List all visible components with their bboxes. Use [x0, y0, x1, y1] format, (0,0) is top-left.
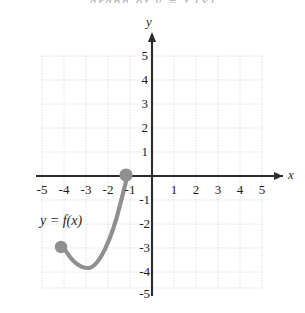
- y-tick-label: 5: [142, 48, 149, 64]
- y-tick-label: -1: [139, 192, 150, 208]
- endpoint-dot-left: [55, 241, 67, 253]
- x-tick-label: -5: [37, 182, 48, 198]
- x-tick-label: 1: [171, 182, 178, 198]
- y-tick-label: 2: [142, 120, 149, 136]
- endpoint-dot-right: [119, 168, 132, 181]
- x-tick-label: 4: [237, 182, 244, 198]
- y-axis-label: y: [146, 14, 152, 30]
- x-tick-label: -3: [81, 182, 92, 198]
- x-axis-label: x: [288, 167, 294, 183]
- x-tick-label: -1: [125, 182, 136, 198]
- x-tick-label: 3: [215, 182, 222, 198]
- x-tick-label: 5: [259, 182, 266, 198]
- y-tick-label: -3: [139, 240, 150, 256]
- y-tick-label: -4: [139, 264, 150, 280]
- y-axis-arrow-icon: [148, 32, 156, 42]
- curve-annotation-label: y = f(x): [40, 213, 82, 229]
- x-axis-arrow-icon: [274, 172, 283, 180]
- y-tick-label: 3: [142, 96, 149, 112]
- x-tick-label: -2: [103, 182, 114, 198]
- graph-figure: [0, 0, 305, 313]
- axes: [36, 34, 283, 296]
- y-tick-label: 4: [142, 72, 149, 88]
- x-tick-label: -4: [59, 182, 70, 198]
- y-tick-label: 1: [142, 144, 149, 160]
- y-tick-label: -5: [139, 286, 150, 302]
- x-tick-label: 2: [193, 182, 200, 198]
- y-tick-label: -2: [139, 216, 150, 232]
